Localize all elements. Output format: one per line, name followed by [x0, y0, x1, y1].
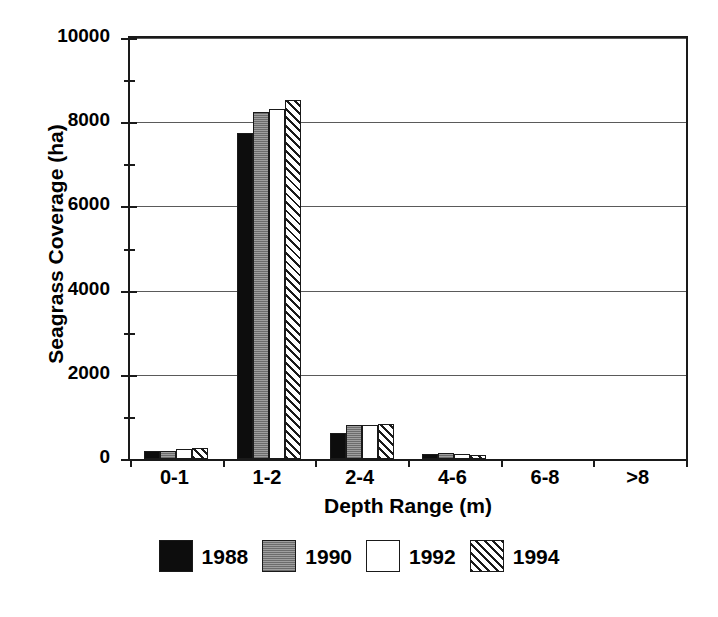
- legend-item-1988: 1988: [159, 540, 249, 572]
- legend-label-1990: 1990: [305, 546, 352, 567]
- bar-group-1-2: [237, 38, 301, 459]
- bar-1992-1-2: [269, 109, 285, 459]
- x-tick-label-4-6: 4-6: [438, 466, 467, 489]
- y-tick-label-10000: 10000: [18, 25, 110, 47]
- plot-area: [128, 36, 688, 461]
- y-tick-inner-4000: [130, 291, 137, 293]
- y-tick-inner-6000: [130, 206, 137, 208]
- legend-label-1992: 1992: [409, 546, 456, 567]
- legend-label-1994: 1994: [513, 546, 560, 567]
- bar-group-4-6: [422, 38, 486, 459]
- bar-1994-4-6: [470, 455, 486, 459]
- bar-1990-1-2: [253, 112, 269, 459]
- gridline-8000: [130, 122, 686, 123]
- x-tick-label-6-8: 6-8: [531, 466, 560, 489]
- bar-1990-4-6: [438, 453, 454, 459]
- y-axis-tick-labels: 0200040006000800010000: [18, 0, 110, 617]
- y-tick-4000: [121, 291, 130, 293]
- bar-1994-1-2: [285, 100, 301, 459]
- chart-legend: 1988199019921994: [0, 540, 718, 572]
- y-tick-label-2000: 2000: [18, 362, 110, 384]
- legend-swatch-1990: [262, 540, 296, 572]
- legend-item-1990: 1990: [262, 540, 352, 572]
- bar-1988-4-6: [422, 454, 438, 459]
- legend-swatch-1988: [159, 540, 193, 572]
- seagrass-coverage-bar-chart: Seagrass Coverage (ha) 02000400060008000…: [0, 0, 718, 617]
- y-tick-inner-8000: [130, 122, 137, 124]
- y-tick-2000: [121, 375, 130, 377]
- y-minor-tick-inner-3000: [130, 333, 135, 335]
- gridline-4000: [130, 291, 686, 292]
- y-tick-inner-10000: [130, 38, 137, 40]
- bar-1988-2-4: [330, 433, 346, 459]
- x-axis-title: Depth Range (m): [128, 494, 688, 518]
- x-tick-label->8: >8: [626, 466, 649, 489]
- y-tick-inner-2000: [130, 375, 137, 377]
- x-tick-label-2-4: 2-4: [345, 466, 374, 489]
- y-minor-tick-inner-7000: [130, 164, 135, 166]
- y-minor-tick-inner-5000: [130, 249, 135, 251]
- x-tick-label-1-2: 1-2: [253, 466, 282, 489]
- x-tick-label-0-1: 0-1: [160, 466, 189, 489]
- legend-item-1992: 1992: [366, 540, 456, 572]
- gridline-2000: [130, 375, 686, 376]
- y-tick-label-8000: 8000: [18, 109, 110, 131]
- y-tick-10000: [121, 38, 130, 40]
- bar-1992-0-1: [176, 449, 192, 459]
- bar-1992-4-6: [454, 454, 470, 459]
- y-tick-6000: [121, 206, 130, 208]
- x-axis-tick-labels: 0-11-22-44-66-8>8: [128, 466, 688, 496]
- bar-1988-1-2: [237, 133, 253, 459]
- y-tick-label-0: 0: [18, 446, 110, 468]
- bar-1988-0-1: [144, 451, 160, 459]
- y-tick-label-6000: 6000: [18, 193, 110, 215]
- gridline-10000: [130, 38, 686, 39]
- bar-1992-2-4: [362, 425, 378, 459]
- bar-1990-0-1: [160, 451, 176, 459]
- legend-swatch-1994: [470, 540, 504, 572]
- bar-1994-0-1: [192, 448, 208, 459]
- y-tick-0: [121, 459, 130, 461]
- gridline-6000: [130, 206, 686, 207]
- y-tick-label-4000: 4000: [18, 278, 110, 300]
- bar-1990-2-4: [346, 425, 362, 459]
- bar-group->8: [608, 38, 672, 459]
- bar-group-2-4: [330, 38, 394, 459]
- legend-label-1988: 1988: [202, 546, 249, 567]
- legend-swatch-1992: [366, 540, 400, 572]
- y-tick-8000: [121, 122, 130, 124]
- legend-item-1994: 1994: [470, 540, 560, 572]
- bar-group-6-8: [515, 38, 579, 459]
- bar-1994-2-4: [378, 424, 394, 459]
- y-minor-tick-inner-9000: [130, 80, 135, 82]
- bar-group-0-1: [144, 38, 208, 459]
- y-minor-tick-inner-1000: [130, 417, 135, 419]
